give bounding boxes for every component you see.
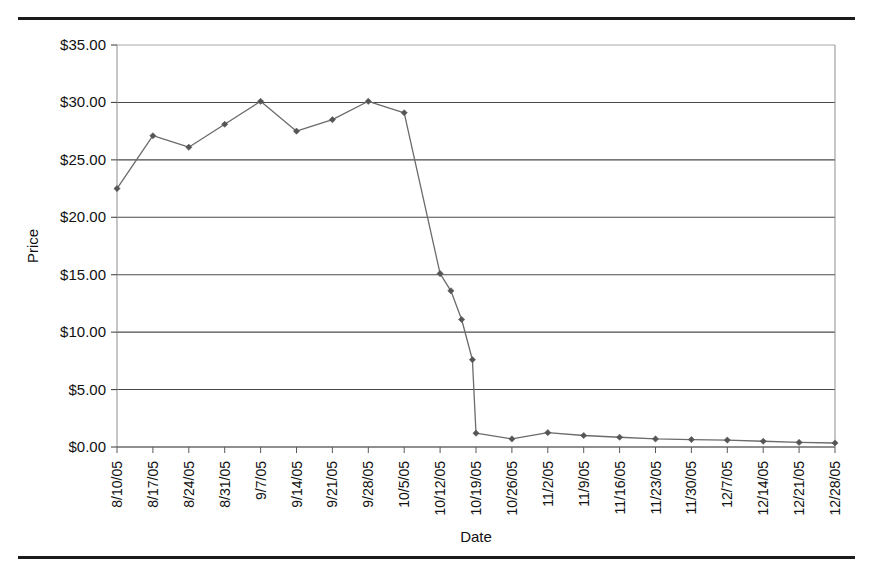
price-series	[117, 101, 835, 443]
x-axis-ticks	[117, 447, 835, 453]
x-axis-tick-label: 11/16/05	[612, 461, 628, 515]
x-axis-tick-label: 10/26/05	[504, 461, 520, 516]
x-axis-tick-labels: 8/10/058/17/058/24/058/31/059/7/059/14/0…	[109, 461, 843, 516]
x-axis-tick-label: 9/21/05	[324, 461, 340, 508]
x-axis-tick-label: 12/21/05	[791, 461, 807, 516]
chart-figure: $0.00$5.00$10.00$15.00$20.00$25.00$30.00…	[0, 0, 869, 577]
data-point-marker	[222, 121, 228, 127]
data-point-marker	[437, 270, 443, 276]
gridlines-group	[117, 45, 835, 447]
data-point-marker	[796, 439, 802, 445]
data-point-marker	[473, 430, 479, 436]
data-point-marker	[186, 144, 192, 150]
x-axis-tick-label: 8/31/05	[217, 461, 233, 508]
data-point-marker	[459, 316, 465, 322]
x-axis-tick-label: 12/7/05	[719, 461, 735, 508]
x-axis-title: Date	[460, 528, 492, 545]
x-axis-tick-label: 10/12/05	[432, 461, 448, 516]
x-axis-tick-label: 8/10/05	[109, 461, 125, 508]
x-axis-tick-label: 9/7/05	[253, 461, 269, 500]
data-point-marker	[832, 440, 838, 446]
y-axis-tick-labels: $0.00$5.00$10.00$15.00$20.00$25.00$30.00…	[60, 36, 106, 455]
y-axis-title: Price	[24, 229, 41, 263]
x-axis-tick-label: 11/9/05	[576, 461, 592, 507]
x-axis-tick-label: 11/30/05	[683, 461, 699, 515]
data-point-marker	[617, 434, 623, 440]
price-line	[117, 101, 835, 443]
x-axis-tick-label: 12/28/05	[827, 461, 843, 516]
data-point-marker	[545, 430, 551, 436]
x-axis-tick-label: 9/28/05	[360, 461, 376, 508]
data-point-marker	[448, 288, 454, 294]
y-axis-tick-label: $30.00	[60, 93, 106, 110]
x-axis-tick-label: 8/17/05	[145, 461, 161, 508]
y-axis-tick-label: $15.00	[60, 266, 106, 283]
x-axis-tick-label: 10/5/05	[396, 461, 412, 508]
data-point-marker	[329, 117, 335, 123]
data-point-marker	[760, 438, 766, 444]
y-axis-tick-label: $25.00	[60, 151, 106, 168]
y-axis-tick-label: $0.00	[68, 438, 106, 455]
y-axis-tick-label: $10.00	[60, 323, 106, 340]
x-axis-tick-label: 9/14/05	[289, 461, 305, 508]
data-point-marker	[365, 98, 371, 104]
chart-svg: $0.00$5.00$10.00$15.00$20.00$25.00$30.00…	[0, 0, 869, 545]
data-point-marker	[688, 436, 694, 442]
y-axis-tick-label: $35.00	[60, 36, 106, 53]
y-axis-tick-label: $5.00	[68, 381, 106, 398]
data-point-marker	[724, 437, 730, 443]
data-point-marker	[401, 110, 407, 116]
x-axis-tick-label: 8/24/05	[181, 461, 197, 508]
data-point-marker	[581, 432, 587, 438]
data-point-marker	[509, 436, 515, 442]
x-axis-tick-label: 11/23/05	[648, 461, 664, 515]
bottom-horizontal-rule	[18, 556, 855, 559]
price-date-line-chart: $0.00$5.00$10.00$15.00$20.00$25.00$30.00…	[0, 0, 869, 545]
data-point-marker	[469, 357, 475, 363]
x-axis-tick-label: 10/19/05	[468, 461, 484, 516]
x-axis-tick-label: 12/14/05	[755, 461, 771, 516]
y-axis-ticks	[111, 45, 117, 447]
x-axis-tick-label: 11/2/05	[540, 461, 556, 507]
price-series-markers	[114, 98, 838, 446]
data-point-marker	[652, 436, 658, 442]
y-axis-tick-label: $20.00	[60, 208, 106, 225]
plot-frame	[117, 45, 835, 447]
